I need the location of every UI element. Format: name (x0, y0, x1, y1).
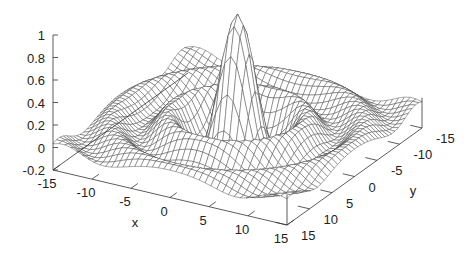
y-tick-label: -10 (414, 147, 433, 162)
x-tick-label: -10 (77, 185, 96, 200)
x-tick-label: 5 (199, 213, 206, 228)
plot-canvas: 10.80.60.40.20-0.2-15-10-5051015151050-5… (0, 0, 472, 253)
y-tick-label: 5 (346, 196, 353, 211)
x-tick (248, 211, 255, 216)
x-tick (287, 220, 294, 225)
z-tick-label: 0.8 (27, 51, 45, 66)
y-tick (298, 206, 310, 209)
y-tick (388, 141, 400, 144)
y-tick (343, 174, 355, 177)
x-tick-label: 0 (160, 204, 167, 219)
surface-plot: 10.80.60.40.20-0.2-15-10-5051015151050-5… (0, 0, 472, 253)
z-tick-label: 1 (38, 28, 45, 43)
y-tick (320, 190, 332, 193)
z-tick-label: 0.2 (27, 118, 45, 133)
x-axis-label: x (132, 215, 139, 230)
x-tick-label: -5 (119, 194, 131, 209)
x-tick (53, 165, 60, 170)
y-tick (275, 222, 287, 225)
z-tick-label: 0.6 (27, 73, 45, 88)
y-axis-label: y (410, 183, 417, 198)
y-tick-label: 10 (324, 212, 338, 227)
x-tick (92, 174, 99, 179)
y-tick (410, 125, 422, 128)
z-tick-label: 0.4 (27, 96, 45, 111)
x-tick (131, 183, 138, 188)
y-tick (365, 158, 377, 161)
y-tick-label: -15 (436, 131, 455, 146)
x-tick-label: -15 (38, 176, 57, 191)
y-tick-label: 0 (369, 180, 376, 195)
y-tick-label: 15 (301, 228, 315, 243)
x-tick (170, 193, 177, 198)
y-tick-label: -5 (391, 163, 403, 178)
x-tick-label: 10 (235, 222, 249, 237)
x-tick (209, 202, 216, 207)
x-tick-label: 15 (274, 231, 288, 246)
wireframe-surface (53, 14, 422, 199)
z-tick-label: 0 (38, 141, 45, 156)
